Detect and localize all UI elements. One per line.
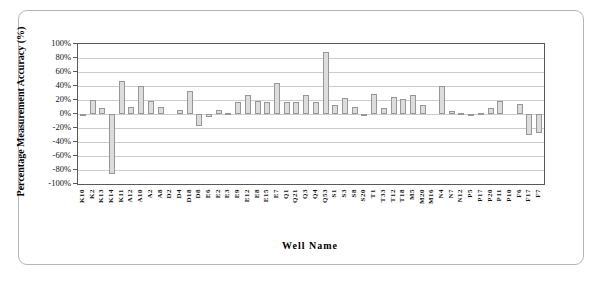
xtick-label-K10: K10 — [78, 189, 86, 205]
xtick-label-E9: E9 — [233, 189, 241, 200]
xtick-label-Q1: Q1 — [282, 189, 290, 201]
xtick-label-N4: N4 — [437, 189, 445, 201]
bar-S8 — [352, 107, 358, 114]
xtick-label-M16: M16 — [427, 189, 435, 206]
bar-A2 — [148, 101, 154, 114]
xtick-label-E8: E8 — [253, 189, 261, 200]
xtick-label-F17: F17 — [524, 189, 532, 204]
bar-N4 — [439, 86, 445, 114]
xtick-label-F6: F6 — [515, 189, 523, 200]
ytick-mark — [73, 169, 77, 170]
xtick-label-E15: E15 — [262, 189, 270, 204]
xtick-label-D8: D8 — [194, 189, 202, 201]
ytick-mark — [73, 113, 77, 114]
bar-E12 — [245, 95, 251, 114]
bar-N7 — [449, 111, 455, 115]
gridline--80 — [78, 170, 544, 171]
xtick-label-P5: P5 — [466, 189, 474, 200]
xtick-label-A8: A8 — [156, 189, 164, 201]
ytick-mark — [73, 141, 77, 142]
chart-figure: Percentage Measurement Accuracy (%) 100%… — [0, 0, 604, 283]
xtick-label-D4: D4 — [175, 189, 183, 201]
ytick-label-100%: 100% — [29, 38, 71, 48]
gridline-80 — [78, 58, 544, 59]
xtick-label-P17: P17 — [476, 189, 484, 204]
bar-Q1 — [284, 102, 290, 114]
bar-P5 — [468, 114, 474, 116]
bar-F6 — [517, 104, 523, 115]
bar-D4 — [177, 110, 183, 114]
bar-Q53 — [323, 52, 329, 114]
bar-Q21 — [293, 102, 299, 114]
xtick-label-T1: T1 — [369, 189, 377, 200]
bar-E3 — [225, 113, 231, 115]
gridline--20 — [78, 128, 544, 129]
bar-K2 — [90, 100, 96, 114]
xtick-label-T33: T33 — [379, 189, 387, 204]
ytick-mark — [73, 127, 77, 128]
bar-F7 — [536, 114, 542, 133]
ytick-label--20%: -20% — [29, 122, 71, 132]
bar-A8 — [158, 107, 164, 114]
bar-A12 — [128, 107, 134, 114]
ytick-label-20%: 20% — [29, 94, 71, 104]
bar-T12 — [391, 97, 397, 114]
bar-F17 — [526, 114, 532, 135]
ytick-mark — [73, 155, 77, 156]
xtick-label-P20: P20 — [486, 189, 494, 204]
xtick-label-S1: S1 — [330, 189, 338, 199]
xtick-label-A12: A12 — [126, 189, 134, 205]
bar-P11 — [497, 101, 503, 114]
bar-K10 — [80, 114, 86, 116]
ytick-label-0%: 0% — [29, 108, 71, 118]
xtick-label-S20: S20 — [359, 189, 367, 203]
ytick-mark — [73, 99, 77, 100]
ytick-label--60%: -60% — [29, 150, 71, 160]
xtick-label-N7: N7 — [447, 189, 455, 201]
bar-K14 — [109, 114, 115, 174]
gridline-60 — [78, 72, 544, 73]
xtick-label-A2: A2 — [146, 189, 154, 201]
ytick-label-80%: 80% — [29, 52, 71, 62]
bar-P17 — [478, 113, 484, 115]
gridline-40 — [78, 86, 544, 87]
bar-T1 — [371, 94, 377, 114]
xtick-label-S8: S8 — [350, 189, 358, 199]
bar-E6 — [206, 114, 212, 117]
bar-Q4 — [313, 102, 319, 114]
ytick-label-60%: 60% — [29, 66, 71, 76]
xtick-label-P11: P11 — [495, 189, 503, 203]
y-axis-title: Percentage Measurement Accuracy (%) — [15, 0, 26, 262]
ytick-label--40%: -40% — [29, 136, 71, 146]
xtick-label-E6: E6 — [204, 189, 212, 200]
bar-M20 — [420, 105, 426, 114]
gridline--60 — [78, 156, 544, 157]
xtick-label-F7: F7 — [534, 189, 542, 200]
xtick-label-M20: M20 — [418, 189, 426, 206]
bar-S3 — [342, 98, 348, 114]
bar-S20 — [361, 114, 367, 116]
bar-E15 — [264, 102, 270, 114]
bar-D8 — [196, 114, 202, 126]
xtick-label-T12: T12 — [389, 189, 397, 204]
xtick-label-T18: T18 — [398, 189, 406, 204]
xtick-label-K11: K11 — [117, 189, 125, 205]
xtick-label-Q4: Q4 — [311, 189, 319, 201]
bar-E7 — [274, 83, 280, 115]
ytick-mark — [73, 85, 77, 86]
bar-K13 — [99, 108, 105, 114]
xtick-label-D18: D18 — [185, 189, 193, 205]
gridline--40 — [78, 142, 544, 143]
xtick-label-A10: A10 — [136, 189, 144, 205]
ytick-label--80%: -80% — [29, 164, 71, 174]
bar-P20 — [488, 108, 494, 114]
xtick-label-P10: P10 — [505, 189, 513, 204]
bar-T33 — [381, 108, 387, 114]
xtick-label-Q3: Q3 — [301, 189, 309, 201]
xtick-label-E7: E7 — [272, 189, 280, 200]
plot-area — [77, 43, 545, 185]
ytick-label-40%: 40% — [29, 80, 71, 90]
xtick-label-K14: K14 — [107, 189, 115, 205]
xtick-label-E3: E3 — [223, 189, 231, 200]
xtick-label-M5: M5 — [408, 189, 416, 202]
